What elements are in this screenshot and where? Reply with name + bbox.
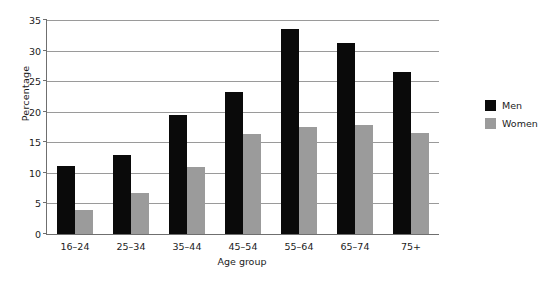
bar-men[interactable] <box>169 115 187 234</box>
bar-women[interactable] <box>411 133 429 234</box>
bar-women[interactable] <box>131 193 149 234</box>
x-axis-title: Age group <box>46 256 438 267</box>
y-axis-tick-label: 0 <box>35 229 41 240</box>
y-axis-tick-label: 5 <box>35 198 41 209</box>
bar-group: 35–44 <box>159 20 215 234</box>
legend-swatch-men <box>485 100 496 111</box>
x-axis-category-label: 65–74 <box>341 241 370 252</box>
bar-men[interactable] <box>337 43 355 234</box>
legend-item[interactable]: Men <box>485 100 538 111</box>
y-axis-tick-label: 25 <box>29 76 41 87</box>
bar-chart: Percentage 05101520253035 16–2425–3435–4… <box>0 0 543 283</box>
legend-item[interactable]: Women <box>485 118 538 129</box>
bar-group: 75+ <box>383 20 439 234</box>
x-axis-category-label: 16–24 <box>61 241 90 252</box>
x-axis-category-label: 35–44 <box>173 241 202 252</box>
legend-label: Women <box>502 118 538 129</box>
bar-group: 25–34 <box>103 20 159 234</box>
bar-men[interactable] <box>57 166 75 234</box>
y-axis-tick-label: 15 <box>29 137 41 148</box>
bar-women[interactable] <box>299 127 317 234</box>
y-axis-tick-label: 10 <box>29 167 41 178</box>
x-axis-category-label: 45–54 <box>229 241 258 252</box>
bar-groups: 16–2425–3435–4445–5455–6465–7475+ <box>47 20 439 234</box>
y-axis-tick-label: 30 <box>29 45 41 56</box>
bar-men[interactable] <box>225 92 243 234</box>
y-axis-tick-label: 35 <box>29 15 41 26</box>
bar-group: 55–64 <box>271 20 327 234</box>
bar-men[interactable] <box>281 29 299 234</box>
plot-area: 05101520253035 16–2425–3435–4445–5455–64… <box>46 20 439 235</box>
bar-group: 16–24 <box>47 20 103 234</box>
y-axis-tick-label: 20 <box>29 106 41 117</box>
legend-swatch-women <box>485 118 496 129</box>
bar-men[interactable] <box>113 155 131 234</box>
bar-women[interactable] <box>355 125 373 234</box>
x-axis-category-label: 25–34 <box>117 241 146 252</box>
legend-label: Men <box>502 100 522 111</box>
bar-group: 45–54 <box>215 20 271 234</box>
bar-group: 65–74 <box>327 20 383 234</box>
bar-women[interactable] <box>187 167 205 234</box>
x-axis-category-label: 55–64 <box>285 241 314 252</box>
bar-men[interactable] <box>393 72 411 234</box>
x-axis-category-label: 75+ <box>401 241 421 252</box>
bar-women[interactable] <box>243 134 261 234</box>
bar-women[interactable] <box>75 210 93 234</box>
legend: MenWomen <box>485 100 538 136</box>
